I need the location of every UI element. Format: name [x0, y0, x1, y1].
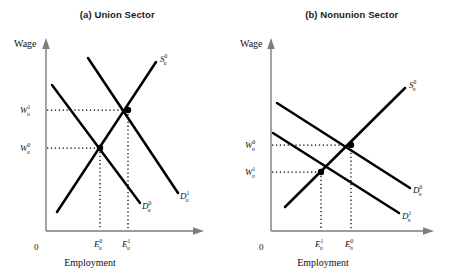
- equilibrium-dot-shifted: [317, 169, 323, 175]
- curve-label-demand-shifted-nonunion: D1n: [401, 210, 412, 223]
- two-panel-figure: (a) Union Sector Wage E: [0, 0, 469, 273]
- x-tick-employment-initial: E0u: [93, 238, 103, 251]
- y-tick-wage-shifted: W1u: [20, 104, 31, 117]
- curve-label-demand-initial-nonunion: D0n: [412, 184, 423, 197]
- panel-nonunion-sector: (b) Nonunion Sector Wage: [235, 0, 469, 273]
- x-tick-employment-initial: E0n: [344, 238, 354, 251]
- nonunion-sector-chart: Wage Employment 0 W0n W1n E1n E0n S0n D: [235, 0, 469, 273]
- y-tick-wage-shifted: W1n: [245, 166, 256, 179]
- x-tick-employment-shifted: E1u: [121, 238, 131, 251]
- union-sector-chart: Wage Employment 0 W1u W0u E0u E1u S0u D: [0, 0, 234, 273]
- x-axis-arrowhead: [193, 227, 204, 235]
- origin-label: 0: [259, 242, 264, 252]
- curve-demand-initial-union: [52, 85, 140, 203]
- curve-label-supply-union: S0u: [160, 53, 168, 66]
- panel-union-sector: (a) Union Sector Wage E: [0, 0, 235, 273]
- y-tick-wage-initial: W0u: [20, 142, 31, 155]
- y-axis-label: Wage: [14, 38, 37, 49]
- curve-label-demand-initial-union: D0u: [141, 200, 152, 213]
- y-axis-arrowhead: [42, 38, 50, 49]
- x-axis-label: Employment: [297, 257, 349, 268]
- y-tick-wage-initial: W0n: [245, 139, 256, 152]
- curve-demand-shifted-union: [88, 58, 178, 193]
- y-axis-label: Wage: [240, 38, 263, 49]
- x-axis-arrowhead: [423, 227, 434, 235]
- equilibrium-dot-shifted: [125, 107, 131, 113]
- curve-label-demand-shifted-union: D1u: [179, 190, 190, 203]
- equilibrium-dot-initial: [347, 142, 353, 148]
- x-tick-employment-shifted: E1n: [314, 238, 324, 251]
- equilibrium-dot-initial: [97, 145, 103, 151]
- curve-label-supply-nonunion: S0n: [409, 79, 417, 92]
- origin-label: 0: [34, 242, 39, 252]
- x-axis-label: Employment: [64, 257, 116, 268]
- curve-demand-initial-nonunion: [277, 103, 410, 188]
- y-axis-arrowhead: [267, 38, 275, 49]
